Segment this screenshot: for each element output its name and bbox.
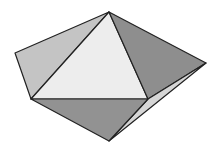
polyhedron-diagram (0, 0, 220, 149)
